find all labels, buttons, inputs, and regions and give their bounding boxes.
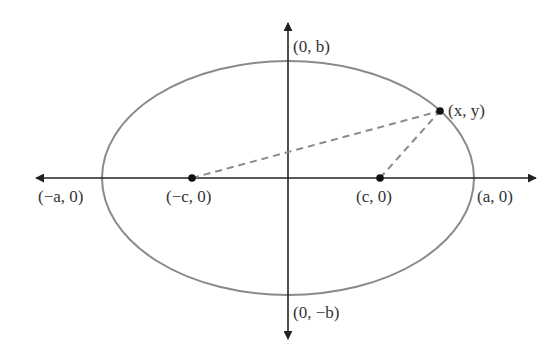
ellipse-point xyxy=(436,107,444,115)
focal-line-left xyxy=(192,111,440,178)
label-right-vertex: (a, 0) xyxy=(477,187,513,206)
right-focus-point xyxy=(376,174,384,182)
ellipse-diagram: (0, b) (0, −b) (−a, 0) (a, 0) (−c, 0) (c… xyxy=(0,0,559,362)
label-right-focus: (c, 0) xyxy=(356,187,392,206)
focal-line-right xyxy=(380,111,440,178)
label-top-vertex: (0, b) xyxy=(293,37,330,56)
label-left-focus: (−c, 0) xyxy=(166,187,211,206)
label-left-vertex: (−a, 0) xyxy=(38,187,83,206)
label-bottom-vertex: (0, −b) xyxy=(293,303,339,322)
left-focus-point xyxy=(188,174,196,182)
label-point: (x, y) xyxy=(448,101,485,120)
